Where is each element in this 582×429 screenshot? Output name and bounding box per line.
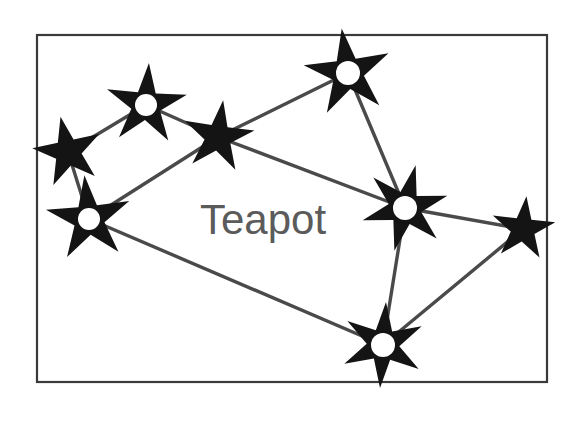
asterism-label: Teapot <box>200 196 326 243</box>
star-core-hole <box>78 208 100 230</box>
star-core-hole <box>371 333 395 357</box>
star-core-hole <box>393 196 417 220</box>
constellation-figure: Teapot <box>0 0 582 429</box>
constellation-canvas: Teapot <box>0 0 582 429</box>
star-core-hole <box>135 94 157 116</box>
star-core-hole <box>336 61 360 85</box>
